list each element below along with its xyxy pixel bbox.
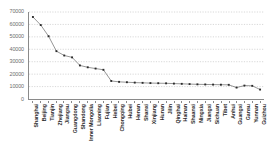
data-point-marker xyxy=(71,56,73,58)
x-tick xyxy=(71,101,72,103)
x-tick-label: Henan xyxy=(136,104,141,120)
x-tick xyxy=(63,101,64,103)
x-tick-label: Shaanxi xyxy=(191,104,196,124)
x-axis: ShanghaiBeijingTianjinZhejiangJiangsuGua… xyxy=(28,101,264,145)
x-tick-label: Guangxi xyxy=(238,104,243,125)
data-point-marker xyxy=(259,89,261,91)
x-tick xyxy=(48,101,49,103)
x-tick-label: Chongqing xyxy=(120,104,125,132)
x-tick xyxy=(103,101,104,103)
data-series-line xyxy=(29,12,264,99)
data-point-marker xyxy=(228,84,230,86)
x-tick xyxy=(95,101,96,103)
series-line xyxy=(33,17,260,90)
chart-container: 010000200003000040000500006000070000 Sha… xyxy=(0,0,267,145)
x-tick xyxy=(213,101,214,103)
x-tick xyxy=(197,101,198,103)
x-tick xyxy=(126,101,127,103)
y-tick-label: 10000 xyxy=(10,85,25,90)
x-tick-label: Sichuan xyxy=(215,104,220,124)
x-tick-label: Tibet xyxy=(223,104,228,116)
x-tick-label: Shanxi xyxy=(144,104,149,121)
x-tick-label: Guangdong xyxy=(73,104,78,133)
y-tick-label: 30000 xyxy=(10,60,25,65)
x-tick-label: Jilin xyxy=(168,104,173,114)
x-tick-label: Hebei xyxy=(113,104,118,118)
data-point-marker xyxy=(220,84,222,86)
data-point-marker xyxy=(134,82,136,84)
data-point-marker xyxy=(243,85,245,87)
x-tick-label: Beijing xyxy=(42,104,47,121)
x-tick xyxy=(87,101,88,103)
data-point-marker xyxy=(142,82,144,84)
data-point-marker xyxy=(236,87,238,89)
x-tick xyxy=(181,101,182,103)
x-tick xyxy=(260,101,261,103)
y-tick-label: 0 xyxy=(21,97,24,102)
data-point-marker xyxy=(63,55,65,57)
x-tick xyxy=(56,101,57,103)
x-tick-label: Inner Mongolia xyxy=(89,104,94,141)
x-tick-label: Jiangsu xyxy=(65,104,70,124)
x-tick xyxy=(252,101,253,103)
data-point-marker xyxy=(48,35,50,37)
data-point-marker xyxy=(40,24,42,26)
y-tick-label: 60000 xyxy=(10,22,25,27)
x-tick-label: Anhui xyxy=(231,104,236,119)
x-tick-label: Tianjin xyxy=(50,104,55,121)
plot-area xyxy=(28,12,264,100)
x-tick xyxy=(205,101,206,103)
data-point-marker xyxy=(165,82,167,84)
x-tick-label: Hainan xyxy=(183,104,188,121)
x-tick-label: Yunnan xyxy=(254,104,259,123)
data-point-marker xyxy=(251,85,253,87)
x-tick xyxy=(32,101,33,103)
x-tick xyxy=(158,101,159,103)
x-tick xyxy=(166,101,167,103)
x-tick xyxy=(189,101,190,103)
x-tick xyxy=(229,101,230,103)
data-point-marker xyxy=(79,65,81,67)
x-tick-label: Shanghai xyxy=(34,104,39,127)
x-tick-label: Guizhou xyxy=(262,104,267,125)
x-tick-label: Liaoning xyxy=(97,104,102,126)
x-tick-label: Fujian xyxy=(105,104,110,119)
data-point-marker xyxy=(87,66,89,68)
x-tick xyxy=(134,101,135,103)
data-point-marker xyxy=(95,68,97,70)
y-tick-label: 70000 xyxy=(10,9,25,14)
x-tick-label: Hubei xyxy=(128,104,133,118)
y-axis: 010000200003000040000500006000070000 xyxy=(0,12,26,100)
x-tick-label: Gansu xyxy=(246,104,251,120)
y-tick-label: 40000 xyxy=(10,47,25,52)
data-point-marker xyxy=(149,82,151,84)
data-point-marker xyxy=(126,81,128,83)
x-tick xyxy=(221,101,222,103)
data-point-marker xyxy=(157,82,159,84)
x-tick xyxy=(236,101,237,103)
data-point-marker xyxy=(118,81,120,83)
x-tick xyxy=(118,101,119,103)
y-tick-label: 50000 xyxy=(10,34,25,39)
x-tick xyxy=(150,101,151,103)
x-tick xyxy=(174,101,175,103)
x-tick-label: Zhejiang xyxy=(58,104,63,125)
x-tick xyxy=(111,101,112,103)
x-tick-label: Ningxia xyxy=(199,104,204,123)
data-point-marker xyxy=(32,16,34,18)
data-point-marker xyxy=(196,83,198,85)
x-tick xyxy=(79,101,80,103)
data-point-marker xyxy=(102,69,104,71)
data-point-marker xyxy=(189,83,191,85)
x-tick xyxy=(40,101,41,103)
data-point-marker xyxy=(181,83,183,85)
x-tick xyxy=(142,101,143,103)
x-tick-label: Jiangxi xyxy=(207,104,212,122)
y-tick-label: 20000 xyxy=(10,72,25,77)
x-tick-label: Qinghai xyxy=(176,104,181,123)
data-point-marker xyxy=(55,50,57,52)
data-point-marker xyxy=(204,84,206,86)
x-tick-label: Xinjiang xyxy=(152,104,157,124)
data-point-marker xyxy=(212,84,214,86)
data-point-marker xyxy=(173,83,175,85)
